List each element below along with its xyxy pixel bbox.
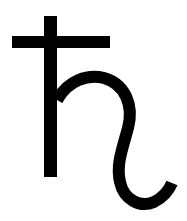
crossbar (12, 36, 110, 48)
saturn-symbol-canvas (0, 0, 187, 221)
sickle-curve (57, 77, 172, 204)
saturn-symbol-icon (0, 0, 187, 221)
